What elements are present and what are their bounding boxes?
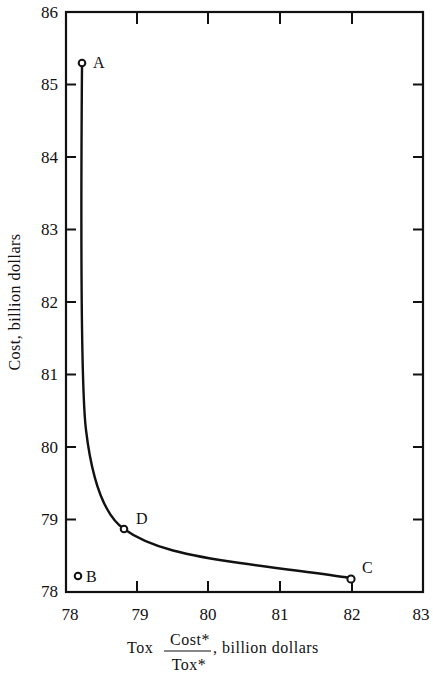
- svg-text:79: 79: [132, 605, 149, 624]
- point-c: C: [347, 559, 372, 583]
- svg-text:80: 80: [41, 438, 58, 457]
- svg-text:C: C: [362, 559, 373, 576]
- svg-text:85: 85: [41, 75, 58, 94]
- svg-text:81: 81: [272, 605, 289, 624]
- chart: 86 85 84 83 82 81 80 79 78 78 79 80 81 8…: [0, 0, 433, 688]
- svg-text:83: 83: [41, 220, 58, 239]
- x-ticks-bottom: [137, 581, 352, 592]
- svg-text:82: 82: [41, 293, 58, 312]
- svg-text:78: 78: [41, 582, 58, 601]
- y-ticks-left: [66, 85, 76, 520]
- x-tick-labels: 78 79 80 81 82 83: [62, 605, 430, 624]
- svg-text:79: 79: [41, 510, 58, 529]
- y-tick-labels: 86 85 84 83 82 81 80 79 78: [41, 3, 59, 601]
- svg-text:A: A: [93, 54, 105, 71]
- y-ticks-right: [413, 85, 423, 520]
- svg-text:, billion dollars: , billion dollars: [213, 639, 319, 656]
- svg-text:B: B: [86, 568, 97, 585]
- plot-frame: [66, 12, 423, 592]
- svg-text:84: 84: [41, 148, 59, 167]
- svg-text:D: D: [136, 510, 148, 527]
- tradeoff-curve: [81, 66, 350, 578]
- y-axis-title: Cost, billion dollars: [6, 233, 23, 370]
- svg-text:81: 81: [41, 365, 58, 384]
- svg-text:Cost*: Cost*: [170, 631, 210, 648]
- point-d: D: [121, 510, 148, 532]
- svg-text:Tox*: Tox*: [172, 656, 207, 673]
- svg-text:80: 80: [200, 605, 217, 624]
- svg-text:86: 86: [41, 3, 58, 22]
- point-b: B: [75, 568, 97, 585]
- svg-text:83: 83: [413, 605, 430, 624]
- x-ticks-top: [137, 12, 352, 24]
- svg-text:78: 78: [62, 605, 79, 624]
- x-axis-title: Tox Cost* Tox* , billion dollars: [127, 631, 319, 673]
- svg-text:Tox: Tox: [127, 639, 153, 656]
- svg-text:82: 82: [344, 605, 361, 624]
